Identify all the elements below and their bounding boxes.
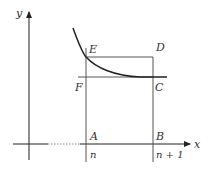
tick-label-n-plus-1: n + 1 [156,149,184,160]
point-label-E: E [88,43,97,56]
point-label-F: F [74,81,83,94]
point-label-C: C [155,81,164,94]
point-label-D: D [155,41,165,54]
integral-test-diagram: y x E D F C A B n n + 1 [0,0,210,169]
y-axis-label: y [15,7,23,20]
point-label-A: A [89,130,98,143]
x-axis-label: x [194,138,201,151]
point-label-B: B [155,130,164,143]
tick-label-n: n [90,149,96,160]
